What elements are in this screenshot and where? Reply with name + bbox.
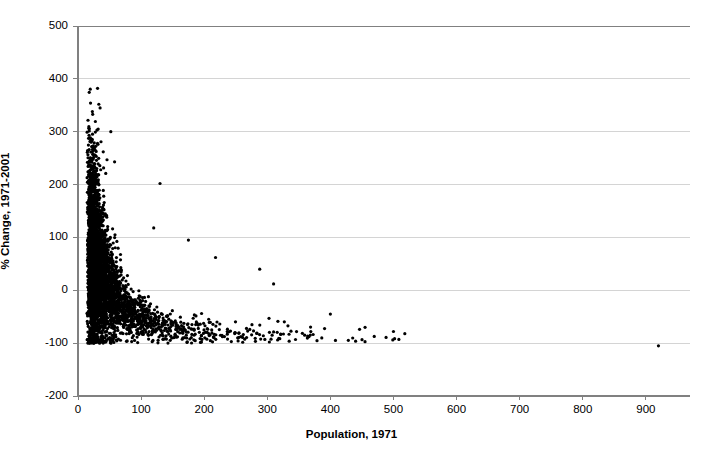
y-tick-label: -100: [20, 337, 68, 349]
x-tick-label: 0: [48, 404, 108, 416]
y-tick-label: -200: [20, 390, 68, 402]
x-tick-label: 500: [363, 404, 423, 416]
y-tick-label: 200: [20, 179, 68, 191]
scatter-chart: -200-1000100200300400500 010020030040050…: [0, 0, 703, 468]
y-tick-label: 500: [20, 20, 68, 32]
x-tick-label: 900: [616, 404, 676, 416]
x-tick-label: 300: [237, 404, 297, 416]
x-tick-label: 600: [427, 404, 487, 416]
y-tick-label: 0: [20, 284, 68, 296]
y-tick-label: 300: [20, 126, 68, 138]
x-axis-title: Population, 1971: [0, 429, 703, 441]
y-tick-label: 100: [20, 231, 68, 243]
x-tick-label: 800: [553, 404, 613, 416]
x-tick-label: 200: [174, 404, 234, 416]
plot-area: [0, 0, 703, 468]
y-tick-marks: [73, 26, 78, 396]
data-points: [86, 87, 661, 348]
x-tick-label: 100: [111, 404, 171, 416]
y-axis-title-text: % Change, 1971-2001: [0, 111, 12, 311]
y-tick-label: 400: [20, 73, 68, 85]
x-tick-label: 700: [490, 404, 550, 416]
x-tick-label: 400: [300, 404, 360, 416]
